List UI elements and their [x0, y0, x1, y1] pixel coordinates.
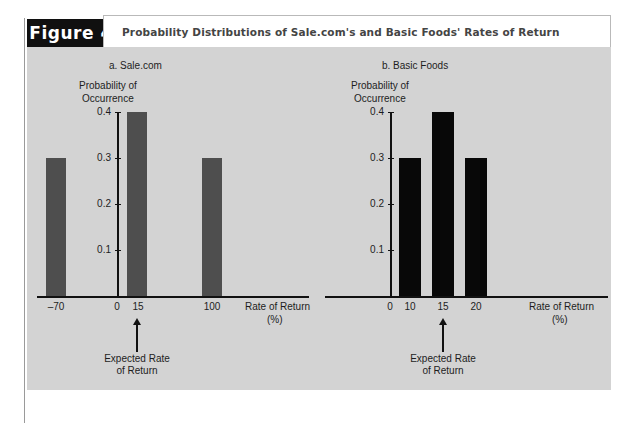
chart-b-xtick-0: 0: [379, 301, 401, 312]
chart-a-bar--70: [46, 158, 66, 296]
chart-a-expected-rate-label: Expected Rate of Return: [97, 353, 177, 377]
chart-b-ytick-0.3: 0.3: [358, 152, 384, 163]
chart-a-ytick-0.1: 0.1: [85, 244, 111, 255]
figure-panel: a. Sale.com Probability of Occurrence 0.…: [27, 47, 611, 390]
chart-b-expected-rate-label: Expected Rate of Return: [403, 353, 483, 377]
figure-title-box: Probability Distributions of Sale.com's …: [103, 15, 611, 49]
chart-a-ytick-mark-0.1: [115, 250, 121, 251]
chart-a-expected-rate-arrow-stem: [136, 325, 138, 352]
chart-b-plot-area: 0.4 0.3 0.2 0.1 0 10 15 20 Rate of Retur…: [319, 47, 611, 390]
chart-b-expected-rate-label-line1: Expected Rate: [403, 353, 483, 365]
chart-b-ytick-0.4: 0.4: [358, 106, 384, 117]
chart-b-ytick-mark-0.1: [388, 250, 394, 251]
chart-b-xtick-10: 10: [399, 301, 421, 312]
chart-b-ytick-mark-0.3: [388, 158, 394, 159]
chart-b-x-axis: [325, 296, 608, 298]
chart-b-x-axis-unit: (%): [552, 314, 568, 325]
figure-container: Figure 4-1 Probability Distributions of …: [0, 0, 629, 430]
chart-a-ytick-0.3: 0.3: [85, 152, 111, 163]
chart-a-ytick-0.2: 0.2: [85, 198, 111, 209]
chart-a-expected-rate-arrowhead: [133, 318, 141, 325]
chart-b-ytick-mark-0.2: [388, 204, 394, 205]
chart-b-ytick-mark-0.4: [388, 112, 394, 113]
chart-b-ytick-0.1: 0.1: [358, 244, 384, 255]
chart-a-xtick-100: 100: [197, 301, 227, 312]
chart-sale-com: a. Sale.com Probability of Occurrence 0.…: [27, 47, 319, 390]
chart-a-xtick--70: –70: [38, 301, 74, 312]
chart-b-expected-rate-label-line2: of Return: [403, 365, 483, 377]
chart-b-expected-rate-arrow-stem: [442, 325, 444, 352]
chart-a-ytick-0.4: 0.4: [85, 106, 111, 117]
chart-a-bar-100: [202, 158, 222, 296]
chart-a-bar-15: [127, 112, 147, 296]
chart-b-xtick-15: 15: [432, 301, 454, 312]
chart-a-x-axis-title: Rate of Return: [245, 301, 310, 312]
chart-b-expected-rate-arrowhead: [439, 318, 447, 325]
chart-a-ytick-mark-0.2: [115, 204, 121, 205]
chart-a-ytick-mark-0.3: [115, 158, 121, 159]
chart-a-ytick-mark-0.4: [115, 112, 121, 113]
chart-b-bar-15: [432, 112, 454, 296]
chart-a-x-axis: [37, 296, 309, 298]
chart-basic-foods: b. Basic Foods Probability of Occurrence…: [319, 47, 611, 390]
chart-a-xtick-15: 15: [127, 301, 149, 312]
chart-a-plot-area: 0.4 0.3 0.2 0.1 –70 0 15 100 Rate of Ret…: [27, 47, 319, 390]
left-margin-rule: [24, 18, 25, 423]
chart-b-bar-20: [465, 158, 487, 296]
figure-title: Probability Distributions of Sale.com's …: [104, 26, 560, 38]
chart-a-expected-rate-label-line1: Expected Rate: [97, 353, 177, 365]
chart-a-expected-rate-label-line2: of Return: [97, 365, 177, 377]
chart-a-xtick-0: 0: [106, 301, 128, 312]
chart-b-x-axis-title: Rate of Return: [529, 301, 594, 312]
chart-a-x-axis-unit: (%): [267, 314, 283, 325]
chart-b-xtick-20: 20: [465, 301, 487, 312]
chart-b-bar-10: [399, 158, 421, 296]
chart-b-ytick-0.2: 0.2: [358, 198, 384, 209]
